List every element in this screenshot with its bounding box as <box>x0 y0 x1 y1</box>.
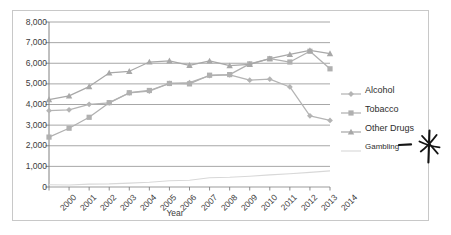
data-point-marker <box>267 76 273 82</box>
y-tick-label: 6,000 <box>26 59 47 68</box>
chart-legend: AlcoholTobaccoOther DrugsGambling <box>340 80 432 156</box>
legend-item-gambling[interactable]: Gambling <box>340 137 432 156</box>
y-tick-label: 1,000 <box>26 162 47 171</box>
data-point-marker <box>207 73 212 78</box>
y-tick-label: 2,000 <box>26 141 47 150</box>
data-point-marker <box>327 66 332 71</box>
data-point-marker <box>287 59 292 64</box>
legend-item-other-drugs[interactable]: Other Drugs <box>340 118 432 137</box>
series-layer <box>46 47 333 185</box>
data-point-marker <box>247 77 253 83</box>
data-point-marker <box>107 100 112 105</box>
data-point-marker <box>327 117 333 123</box>
legend-label: Gambling <box>362 142 399 151</box>
legend-swatch-icon <box>340 104 362 114</box>
data-point-marker <box>87 115 92 120</box>
data-point-marker <box>167 81 172 86</box>
data-point-marker <box>66 93 72 99</box>
y-tick-label: 7,000 <box>26 38 47 47</box>
y-axis-tick-labels: 8,0007,0006,0005,0004,0003,0002,0001,000… <box>14 0 47 235</box>
legend-label: Alcohol <box>362 85 395 95</box>
axes <box>46 22 331 191</box>
y-tick-label: 3,000 <box>26 121 47 130</box>
series-line <box>49 171 330 185</box>
data-point-marker <box>348 110 353 115</box>
data-point-marker <box>348 91 354 97</box>
data-point-marker <box>86 101 92 107</box>
data-point-marker <box>66 126 71 131</box>
line-chart: 8,0007,0006,0005,0004,0003,0002,0001,000… <box>0 0 451 235</box>
legend-label: Other Drugs <box>362 123 414 133</box>
data-point-marker <box>187 81 192 86</box>
series-line <box>49 50 330 99</box>
data-point-marker <box>46 134 51 139</box>
y-tick-label: 4,000 <box>26 100 47 109</box>
data-point-marker <box>206 58 212 64</box>
legend-item-alcohol[interactable]: Alcohol <box>340 80 432 99</box>
legend-swatch-icon <box>340 123 362 133</box>
y-tick-label: 8,000 <box>26 18 47 27</box>
series-other-drugs <box>46 47 333 102</box>
series-gambling <box>49 171 330 185</box>
data-point-marker <box>227 72 232 77</box>
y-tick-label: 5,000 <box>26 79 47 88</box>
y-tick-label: 0 <box>42 183 47 192</box>
data-point-marker <box>147 88 152 93</box>
data-point-marker <box>66 107 72 113</box>
legend-item-tobacco[interactable]: Tobacco <box>340 99 432 118</box>
legend-swatch-icon <box>340 142 362 152</box>
legend-label: Tobacco <box>362 104 399 114</box>
x-axis-title: Year <box>0 208 350 218</box>
legend-swatch-icon <box>340 85 362 95</box>
data-point-marker <box>127 90 132 95</box>
